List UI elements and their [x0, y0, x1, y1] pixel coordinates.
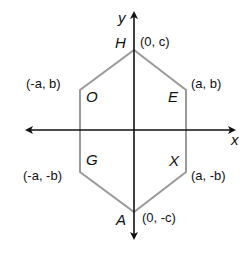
vertex-o-coord: (-a, b) [26, 76, 61, 91]
vertex-h-coord: (0, c) [140, 34, 170, 49]
vertex-e-label: E [168, 88, 179, 105]
vertex-x-coord: (a, -b) [191, 168, 226, 183]
vertex-a-coord: (0, -c) [142, 210, 176, 225]
vertex-g-coord: (-a, -b) [23, 168, 62, 183]
vertex-a-label: A [115, 211, 126, 228]
hexagon-hoxage [80, 50, 186, 212]
vertex-x-label: X [168, 152, 180, 169]
vertex-g-label: G [86, 151, 98, 168]
vertex-h-label: H [115, 34, 126, 51]
vertex-o-label: O [86, 88, 98, 105]
hexagon-diagram: y x H E X A G O (0, c) (a, b) (a, -b) (0… [0, 0, 249, 254]
vertex-e-coord: (a, b) [191, 76, 221, 91]
x-axis-label: x [230, 131, 239, 148]
y-axis-label: y [117, 9, 127, 26]
